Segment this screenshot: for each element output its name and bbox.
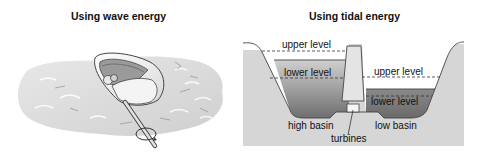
low-basin-label: low basin [375, 121, 417, 131]
high-basin-upper-level-label: upper level [282, 40, 331, 50]
low-basin-upper-level-label: upper level [374, 67, 423, 77]
high-basin-label: high basin [288, 121, 334, 131]
diagram-canvas [0, 0, 477, 159]
wave-energy-device-icon [18, 53, 223, 146]
turbines-label: turbines [331, 134, 367, 144]
high-basin-lower-level-label: lower level [284, 68, 331, 78]
low-basin-lower-level-label: lower level [371, 97, 418, 107]
tidal-cross-section [243, 40, 464, 146]
